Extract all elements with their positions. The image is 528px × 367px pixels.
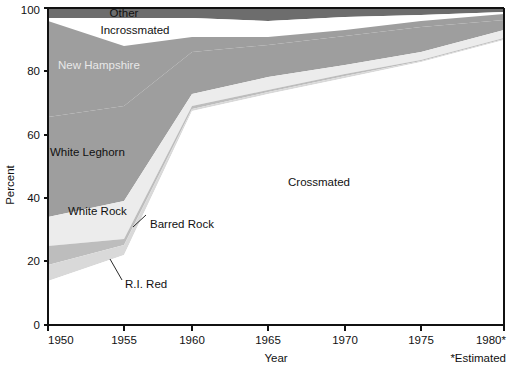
y-tick-label-0: 0 bbox=[34, 319, 40, 331]
y-tick-label-100: 100 bbox=[21, 4, 40, 16]
y-ticks: 0 20 40 60 80 100 bbox=[21, 4, 48, 331]
band-label-crossmated: Crossmated bbox=[288, 176, 350, 188]
x-tick-label-1970: 1970 bbox=[332, 334, 358, 346]
stacked-area-chart: 0 20 40 60 80 100 1950 1955 1960 1965 19… bbox=[0, 0, 528, 367]
x-tick-label-1950: 1950 bbox=[48, 334, 74, 346]
y-tick-label-40: 40 bbox=[27, 192, 40, 204]
band-label-barred-rock: Barred Rock bbox=[150, 218, 214, 230]
area-bands bbox=[48, 8, 504, 325]
x-tick-label-1955: 1955 bbox=[111, 334, 137, 346]
band-label-white-leghorn: White Leghorn bbox=[50, 146, 125, 158]
y-tick-label-80: 80 bbox=[27, 65, 40, 77]
band-label-incrossmated: Incrossmated bbox=[100, 24, 169, 36]
chart-svg: 0 20 40 60 80 100 1950 1955 1960 1965 19… bbox=[0, 0, 528, 367]
band-label-new-hampshire: New Hampshire bbox=[58, 59, 140, 71]
x-tick-label-1980: 1980* bbox=[476, 334, 507, 346]
x-tick-label-1965: 1965 bbox=[255, 334, 281, 346]
band-label-ri-red: R.I. Red bbox=[125, 278, 167, 290]
x-tick-label-1960: 1960 bbox=[179, 334, 205, 346]
x-tick-label-1975: 1975 bbox=[408, 334, 434, 346]
band-label-white-rock: White Rock bbox=[68, 205, 127, 217]
y-tick-label-60: 60 bbox=[27, 129, 40, 141]
x-ticks: 1950 1955 1960 1965 1970 1975 1980* bbox=[48, 325, 507, 346]
x-axis-title: Year bbox=[264, 352, 287, 364]
band-label-other: Other bbox=[110, 7, 139, 19]
y-tick-label-20: 20 bbox=[27, 255, 40, 267]
y-axis-title: Percent bbox=[4, 164, 16, 204]
estimated-footnote: *Estimated bbox=[450, 352, 506, 364]
